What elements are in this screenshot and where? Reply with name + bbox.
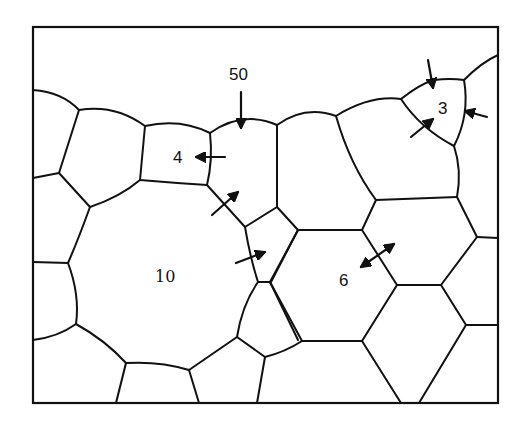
arrow-down-icon	[428, 60, 433, 88]
arrow-double-icon	[361, 244, 394, 267]
grain-labels: 50 4 3 10 6	[155, 65, 447, 290]
arrow-left-icon	[465, 111, 487, 117]
grain-structure-diagram: 50 4 3 10 6	[0, 0, 530, 423]
label-4: 4	[173, 148, 182, 167]
label-10: 10	[155, 267, 175, 286]
grain-boundaries	[33, 55, 498, 403]
label-50: 50	[229, 65, 248, 84]
label-6: 6	[339, 271, 348, 290]
label-3: 3	[438, 99, 447, 118]
migration-arrows	[196, 60, 487, 267]
arrow-diagonal-icon	[411, 119, 433, 137]
